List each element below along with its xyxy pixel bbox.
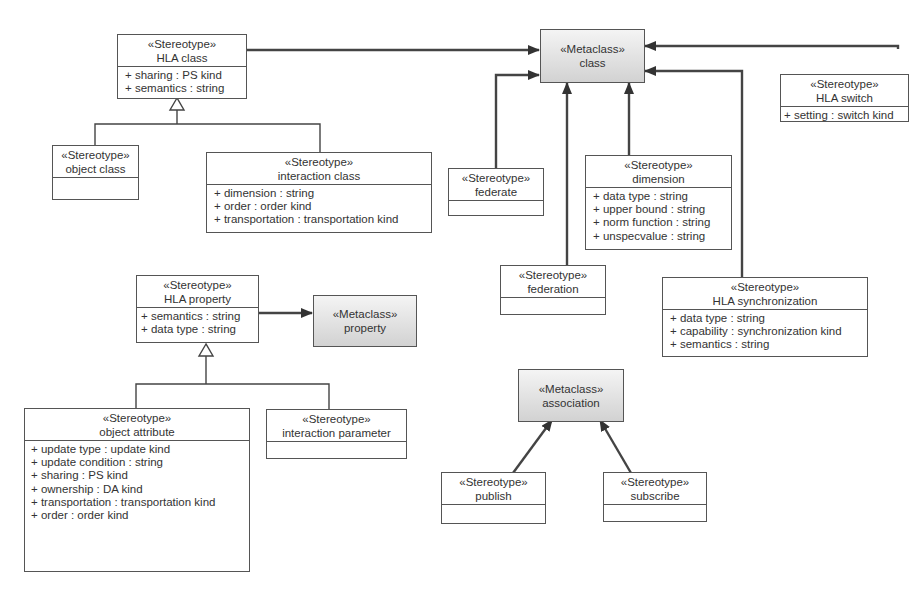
stereotype-name: publish: [444, 489, 543, 503]
attribute-list: + update type : update kind + update con…: [25, 440, 249, 524]
metaclass-class[interactable]: «Metaclass» class: [540, 29, 645, 83]
stereotype-federation[interactable]: «Stereotype» federation: [500, 265, 606, 315]
extension-hla-switch: [645, 46, 898, 49]
stereotype-hla-property[interactable]: «Stereotype» HLA property + semantics : …: [136, 275, 259, 343]
stereotype-name: HLA class: [120, 51, 244, 65]
stereotype-label: «Stereotype»: [606, 475, 704, 489]
generalization-triangle-hla-property: [199, 344, 213, 356]
stereotype-name: object attribute: [27, 425, 247, 439]
attribute: + capability : synchronization kind: [670, 325, 863, 338]
stereotype-hla-class[interactable]: «Stereotype» HLA class + sharing : PS ki…: [117, 34, 247, 99]
stereotype-object-class[interactable]: «Stereotype» object class: [52, 145, 139, 200]
attribute-list: + data type : string + upper bound : str…: [586, 187, 731, 245]
stereotype-name: interaction class: [209, 169, 429, 183]
attribute: + data type : string: [670, 312, 863, 325]
stereotype-label: «Stereotype»: [451, 171, 541, 185]
stereotype-name: federate: [451, 185, 541, 199]
stereotype-label: «Stereotype»: [55, 148, 136, 162]
attribute: + semantics : string: [125, 82, 242, 95]
stereotype-label: «Metaclass»: [539, 382, 604, 396]
stereotype-hla-synchronization[interactable]: «Stereotype» HLA synchronization + data …: [662, 277, 868, 357]
stereotype-interaction-class[interactable]: «Stereotype» interaction class + dimensi…: [206, 152, 432, 233]
attribute-list: + sharing : PS kind + semantics : string: [118, 66, 246, 97]
stereotype-label: «Stereotype»: [588, 158, 729, 172]
attribute-list: [53, 177, 138, 194]
attribute: + sharing : PS kind: [31, 469, 245, 482]
stereotype-label: «Stereotype»: [120, 37, 244, 51]
stereotype-label: «Stereotype»: [503, 268, 603, 282]
stereotype-object-attribute[interactable]: «Stereotype» object attribute + update t…: [24, 408, 250, 572]
attribute: + norm function : string: [593, 216, 727, 229]
metaclass-name: property: [333, 321, 398, 335]
attribute-list: [442, 504, 545, 520]
attribute: + unspecvalue : string: [593, 230, 727, 243]
attribute: + transportation : transportation kind: [214, 213, 427, 226]
stereotype-label: «Metaclass»: [560, 42, 625, 56]
attribute: + semantics : string: [670, 338, 863, 351]
stereotype-name: federation: [503, 282, 603, 296]
stereotype-dimension[interactable]: «Stereotype» dimension + data type : str…: [585, 155, 732, 250]
attribute-list: [604, 504, 706, 519]
stereotype-subscribe[interactable]: «Stereotype» subscribe: [603, 472, 707, 522]
stereotype-label: «Stereotype»: [665, 280, 865, 294]
attribute: + order : order kind: [31, 509, 245, 522]
attribute: + semantics : string: [141, 310, 254, 323]
stereotype-label: «Stereotype»: [269, 412, 404, 426]
stereotype-hla-switch[interactable]: «Stereotype» HLA switch + setting : swit…: [780, 74, 909, 122]
stereotype-label: «Stereotype»: [783, 77, 906, 91]
attribute-list: + setting : switch kind: [781, 106, 908, 124]
attribute: + upper bound : string: [593, 203, 727, 216]
extension-subscribe: [600, 420, 631, 473]
stereotype-label: «Metaclass»: [333, 307, 398, 321]
stereotype-name: object class: [55, 162, 136, 176]
stereotype-name: HLA synchronization: [665, 294, 865, 308]
attribute: + transportation : transportation kind: [31, 496, 245, 509]
generalization-triangle-hla-class: [170, 98, 184, 110]
stereotype-federate[interactable]: «Stereotype» federate: [448, 168, 544, 216]
attribute: + data type : string: [593, 190, 727, 203]
attribute: + dimension : string: [214, 187, 427, 200]
generalization-object-attribute: [136, 384, 329, 409]
stereotype-publish[interactable]: «Stereotype» publish: [441, 472, 546, 524]
attribute: + data type : string: [141, 323, 254, 336]
stereotype-interaction-parameter[interactable]: «Stereotype» interaction parameter: [266, 409, 407, 459]
stereotype-name: subscribe: [606, 489, 704, 503]
stereotype-name: HLA property: [139, 292, 256, 306]
stereotype-label: «Stereotype»: [139, 278, 256, 292]
attribute-list: [449, 200, 543, 213]
metaclass-name: association: [539, 396, 604, 410]
attribute-list: [267, 441, 406, 454]
attribute-list: + dimension : string + order : order kin…: [207, 184, 431, 229]
attribute: + setting : switch kind: [784, 109, 904, 122]
stereotype-name: HLA switch: [783, 91, 906, 105]
stereotype-label: «Stereotype»: [444, 475, 543, 489]
attribute-list: + data type : string + capability : sync…: [663, 309, 867, 354]
attribute: + sharing : PS kind: [125, 69, 242, 82]
stereotype-label: «Stereotype»: [27, 411, 247, 425]
attribute: + update condition : string: [31, 456, 245, 469]
extension-publish: [513, 420, 552, 473]
stereotype-label: «Stereotype»: [209, 155, 429, 169]
metaclass-association[interactable]: «Metaclass» association: [518, 369, 624, 422]
metaclass-property[interactable]: «Metaclass» property: [313, 295, 417, 347]
metaclass-name: class: [560, 56, 625, 70]
attribute: + order : order kind: [214, 200, 427, 213]
stereotype-name: dimension: [588, 172, 729, 186]
attribute-list: [501, 297, 605, 310]
attribute-list: + semantics : string + data type : strin…: [137, 307, 258, 338]
attribute: + update type : update kind: [31, 443, 245, 456]
extension-federate: [496, 75, 539, 172]
stereotype-name: interaction parameter: [269, 426, 404, 440]
attribute: + ownership : DA kind: [31, 483, 245, 496]
